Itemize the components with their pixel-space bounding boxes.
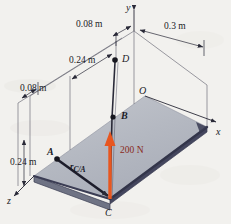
position-vector-label: rC/A: [70, 162, 86, 173]
point-label-b: B: [121, 111, 128, 121]
axis-label-z: z: [7, 196, 11, 206]
engineering-figure: 0.08 m 0.3 m 0.24 m 0.08 m 0.24 m D O B …: [0, 0, 231, 224]
force-label-200n: 200 N: [120, 146, 144, 156]
dimension-label-top-left: 0.08 m: [76, 20, 102, 30]
point-marker-b: [110, 114, 115, 119]
axis-label-y: y: [126, 3, 130, 13]
dimension-label-diagonal: 0.24 m: [69, 56, 95, 66]
point-marker-d: [112, 57, 118, 63]
point-label-a: A: [47, 147, 54, 157]
position-vector-subscript: C/A: [74, 165, 86, 174]
dimension-label-top-right: 0.3 m: [164, 22, 186, 32]
dimension-label-left-lower: 0.24 m: [10, 158, 36, 168]
axis-label-x: x: [216, 127, 220, 137]
point-label-d: D: [122, 54, 129, 64]
figure-vector-graphics: [0, 0, 231, 224]
point-label-o: O: [139, 86, 146, 96]
point-label-c: C: [105, 208, 112, 218]
point-marker-a: [54, 156, 60, 162]
dimension-label-left-upper: 0.08 m: [20, 84, 46, 94]
